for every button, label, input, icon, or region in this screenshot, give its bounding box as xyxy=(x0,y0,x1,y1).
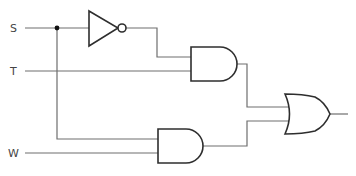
not-gate xyxy=(89,11,126,46)
logic-circuit-diagram: S T W xyxy=(0,0,356,176)
input-label-t: T xyxy=(9,65,17,78)
wire-not-to-and1 xyxy=(126,28,192,57)
and-gate-2 xyxy=(158,129,203,163)
wire-s-branch xyxy=(57,28,159,139)
wire-and1-to-or xyxy=(237,64,291,107)
and-gate-1 xyxy=(191,47,237,81)
wire-and2-to-or xyxy=(203,121,291,146)
input-label-w: W xyxy=(8,147,19,160)
or-gate xyxy=(285,94,330,134)
junction-dot xyxy=(55,26,60,31)
input-label-s: S xyxy=(10,22,17,35)
